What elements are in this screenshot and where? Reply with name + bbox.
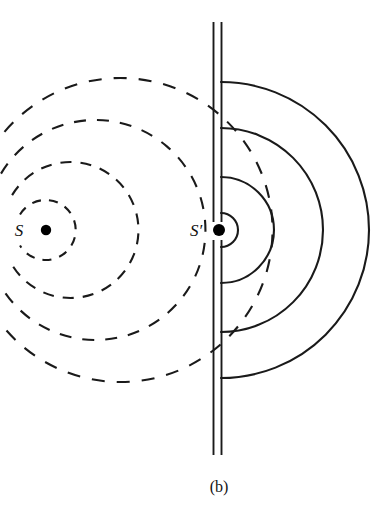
wave-diffraction-diagram: S S′ (b) [0,0,380,522]
source-point-dot [41,225,51,235]
diagram-background [0,0,380,522]
secondary-source-label: S′ [190,221,203,240]
source-label: S [15,221,24,240]
figure-caption: (b) [210,478,229,496]
figure-container: S S′ (b) [0,0,380,522]
secondary-source-point-dot [213,224,225,236]
